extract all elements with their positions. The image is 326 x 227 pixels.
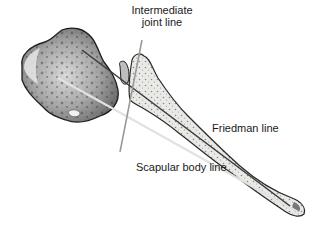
scapular-body-line-label: Scapular body line bbox=[136, 161, 227, 173]
scapular-body-line bbox=[58, 78, 298, 212]
scapula bbox=[129, 54, 304, 216]
shoulder-illustration bbox=[0, 0, 326, 227]
intermediate-label-line1: Intermediate bbox=[124, 4, 200, 16]
friedman-line-label: Friedman line bbox=[212, 122, 279, 134]
intermediate-joint-line-label: Intermediate joint line bbox=[124, 4, 200, 28]
intermediate-label-line2: joint line bbox=[124, 16, 200, 28]
